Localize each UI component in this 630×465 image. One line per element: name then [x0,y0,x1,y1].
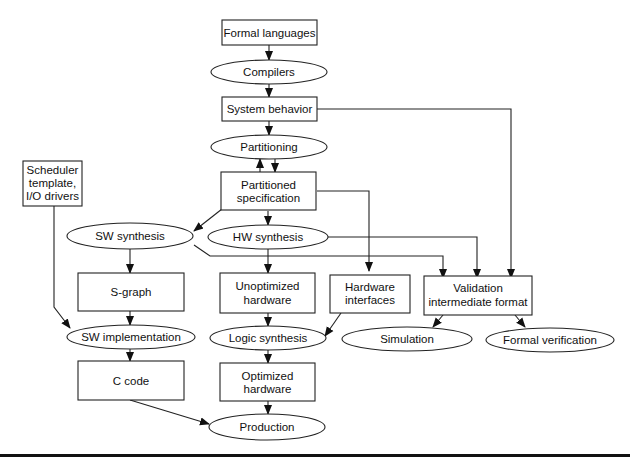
node-c-code: C code [78,361,184,400]
node-label: Partitioning [240,141,298,153]
node-label: SW synthesis [95,230,165,242]
node-partitioned-specification: Partitioned specification [221,172,316,210]
node-hw-synthesis: HW synthesis [208,225,328,249]
node-sw-synthesis: SW synthesis [67,223,193,249]
node-partitioning: Partitioning [211,135,327,159]
node-label: interfaces [345,294,395,306]
node-label: Logic synthesis [229,332,308,344]
node-unoptimized-hardware: Unoptimized hardware [220,273,315,313]
node-label: Unoptimized [236,280,300,292]
node-compilers: Compilers [211,60,327,84]
node-label: template, [29,177,76,189]
node-hardware-interfaces: Hardware interfaces [330,275,410,313]
node-sw-implementation: SW implementation [67,325,195,349]
node-optimized-hardware: Optimized hardware [220,363,315,401]
node-production: Production [209,414,325,440]
node-system-behavior: System behavior [222,97,317,121]
edge-hw-synthesis-to-validation [328,237,477,278]
node-label: S-graph [111,286,152,298]
node-logic-synthesis: Logic synthesis [210,326,326,350]
node-label: Hardware [345,281,395,293]
node-label: Formal verification [503,334,597,346]
node-label: Partitioned [241,179,296,191]
node-label: Optimized [242,370,294,382]
node-formal-verification: Formal verification [486,328,614,352]
node-validation-intermediate-format: Validation intermediate format [424,276,532,315]
node-label: C code [113,375,149,387]
node-label: intermediate format [428,296,528,308]
node-label: HW synthesis [233,231,304,243]
node-label: Scheduler [27,164,79,176]
node-label: hardware [244,294,292,306]
node-label: I/O drivers [26,190,79,202]
node-label: hardware [244,383,292,395]
edge-partitioned-spec-to-hardware-interfaces [317,191,369,271]
edge-hardware-interfaces-to-logic-synthesis [325,313,341,336]
edge-scheduler-to-sw-implementation [54,206,70,328]
node-simulation: Simulation [342,327,472,351]
node-label: Compilers [243,66,295,78]
edge-c-code-to-production [130,400,209,424]
bottom-rule [0,454,630,457]
node-formal-languages: Formal languages [222,20,317,45]
edge-validation-to-simulation [433,315,443,327]
edge-system-behavior-to-validation [317,109,511,278]
node-label: Production [240,421,295,433]
nodes: Formal languages Compilers System behavi… [23,20,614,440]
design-flow-diagram: Formal languages Compilers System behavi… [0,0,630,465]
node-label: SW implementation [81,331,181,343]
edge-validation-to-formal-verification [515,315,525,327]
node-label: specification [237,192,300,204]
node-label: Simulation [380,333,434,345]
node-scheduler-template: Scheduler template, I/O drivers [23,161,82,206]
edge-partitioned-spec-to-sw-synthesis [194,209,222,231]
node-s-graph: S-graph [78,273,184,311]
node-label: System behavior [227,103,313,115]
node-label: Validation [453,282,503,294]
node-label: Formal languages [223,27,315,39]
